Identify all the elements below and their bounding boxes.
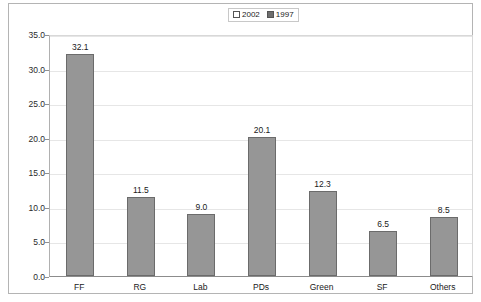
bar-value-label: 8.5 [438,205,450,215]
legend-swatch-1997-icon [267,11,274,18]
bar[interactable] [127,197,155,277]
bar-group: 8.5 [430,34,458,276]
chart-legend: 2002 1997 [228,8,299,22]
y-axis-tick-label: 5.0 [33,237,45,247]
legend-entry-1997[interactable]: 1997 [267,10,294,19]
legend-entry-2002[interactable]: 2002 [233,10,260,19]
bar-group: 6.5 [369,34,397,276]
y-axis-tick-label: 20.0 [28,134,45,144]
y-axis-tick-mark [45,277,49,278]
y-axis-tick-label: 15.0 [28,168,45,178]
bar-value-label: 11.5 [133,185,149,195]
legend-swatch-2002-icon [233,11,240,18]
bar[interactable] [369,231,397,276]
bar[interactable] [309,191,337,276]
bar-group: 9.0 [187,34,215,276]
bar-group: 12.3 [309,34,337,276]
y-axis-tick-label: 10.0 [28,203,45,213]
y-axis-tick-label: 25.0 [28,99,45,109]
x-axis-tick-label: Others [415,282,471,292]
bar-value-label: 32.1 [72,42,89,52]
bar-group: 20.1 [248,34,276,276]
bar-value-label: 6.5 [377,219,389,229]
bar[interactable] [430,217,458,276]
bar[interactable] [66,54,94,276]
chart-frame: 2002 1997 35.030.025.020.015.010.05.00.0… [8,3,473,294]
bar-value-label: 12.3 [314,179,331,189]
y-axis-tick-mark [45,35,49,36]
bar-group: 11.5 [127,34,155,276]
x-axis-tick-label: Green [294,282,350,292]
y-axis-tick-label: 0.0 [33,272,45,282]
x-axis-tick-label: FF [51,282,107,292]
bar-value-label: 20.1 [254,125,271,135]
x-axis-tick-label: Lab [172,282,228,292]
y-axis-tick-mark [45,242,49,243]
bar[interactable] [187,214,215,276]
legend-label-1997: 1997 [276,10,294,19]
plot-area: 32.111.59.020.112.36.58.5 [49,35,473,277]
y-axis-tick-mark [45,173,49,174]
x-axis-tick-label: SF [354,282,410,292]
y-axis-tick-mark [45,208,49,209]
y-axis-tick-mark [45,70,49,71]
x-axis-tick-label: PDs [233,282,289,292]
y-axis-tick-mark [45,104,49,105]
x-axis-tick-label: RG [112,282,168,292]
bar-value-label: 9.0 [196,202,208,212]
legend-label-2002: 2002 [242,10,260,19]
y-axis-tick-label: 35.0 [28,30,45,40]
bar-group: 32.1 [66,34,94,276]
y-axis: 35.030.025.020.015.010.05.00.0 [17,35,45,277]
bar[interactable] [248,137,276,276]
y-axis-tick-label: 30.0 [28,65,45,75]
y-axis-tick-mark [45,139,49,140]
